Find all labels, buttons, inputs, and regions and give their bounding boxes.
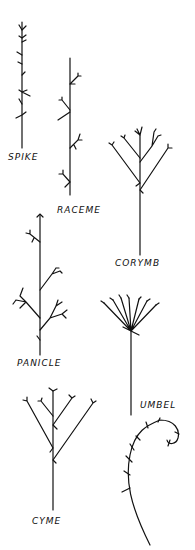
label-spike: SPIKE bbox=[8, 152, 38, 162]
raceme-figure bbox=[58, 58, 82, 195]
label-panicle: PANICLE bbox=[17, 358, 62, 368]
panicle-figure bbox=[13, 214, 67, 355]
spike-figure bbox=[16, 22, 30, 148]
label-umbel: UMBEL bbox=[140, 400, 176, 410]
label-raceme: RACEME bbox=[57, 205, 101, 215]
label-corymb: CORYMB bbox=[115, 258, 160, 268]
label-cyme: CYME bbox=[32, 516, 61, 526]
corymb-figure bbox=[109, 127, 172, 255]
scorpioid-cyme-figure bbox=[122, 418, 179, 545]
umbel-figure bbox=[101, 295, 159, 415]
cyme-figure bbox=[23, 388, 96, 510]
